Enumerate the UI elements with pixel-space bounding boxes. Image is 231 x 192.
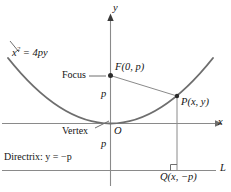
right-angle-marker	[171, 165, 178, 171]
x-axis-label: x	[218, 117, 223, 128]
directrix-equation-label: Directrix: y = −p	[4, 152, 72, 162]
focus-coordinate-label: F(0, p)	[115, 62, 144, 73]
origin-label: O	[114, 126, 122, 137]
y-axis-arrowhead	[107, 14, 113, 22]
point-p-dot	[175, 94, 179, 98]
parabola-figure: x2 = 4py Focus F(0, p) p p Vertex O P(x,…	[0, 0, 231, 192]
y-axis-label: y	[113, 3, 118, 14]
focus-text-label: Focus	[62, 70, 86, 80]
directrix-line-label: L	[220, 163, 226, 174]
distance-p-upper-label: p	[101, 89, 106, 100]
equation-label: x2 = 4py	[12, 46, 48, 58]
vertex-text-label: Vertex	[62, 126, 88, 136]
point-q-label: Q(x, −p)	[160, 172, 197, 183]
distance-p-lower-label: p	[101, 139, 106, 150]
focal-radius-segment	[111, 76, 178, 97]
focus-point-dot	[108, 73, 113, 78]
y-axis	[107, 14, 113, 187]
point-p-label: P(x, y)	[181, 97, 209, 108]
